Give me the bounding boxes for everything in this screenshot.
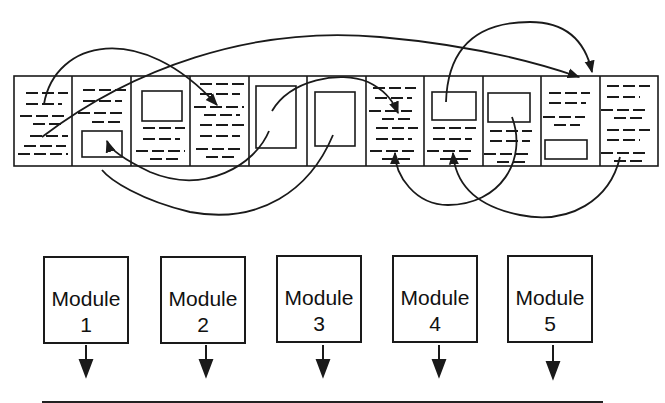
module-5-box: Module 5 [507,255,593,343]
panel-figures [82,86,587,159]
cross-reference-arrows [42,22,620,217]
module-2-number: 2 [162,314,244,336]
module-1-title: Module [45,288,127,310]
figure-panel-5 [256,86,296,148]
module-2-box: Module 2 [160,256,246,344]
module-4-box: Module 4 [392,255,478,343]
module-5-number: 5 [509,313,591,335]
module-3-number: 3 [278,313,360,335]
module-3-box: Module 3 [276,255,362,343]
module-2-title: Module [162,288,244,310]
module-4-number: 4 [394,313,476,335]
module-1-box: Module 1 [43,256,129,344]
module-4-title: Module [394,287,476,309]
module-3-title: Module [278,287,360,309]
figure-panel-10 [545,140,587,159]
module-5-title: Module [509,287,591,309]
module-1-number: 1 [45,314,127,336]
module-output-arrows [80,345,559,378]
figure-panel-3 [142,91,182,121]
figure-panel-9 [488,93,530,122]
figure-panel-8 [432,92,476,120]
figure-panel-6 [315,92,355,146]
